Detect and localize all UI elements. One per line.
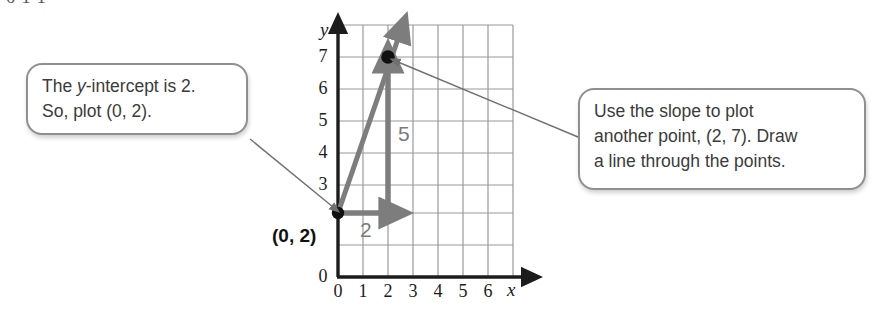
callout-left-line1-post: -intercept is 2.	[86, 76, 196, 96]
x-tick-5: 5	[453, 281, 473, 302]
callout-left-line1-pre: The	[42, 76, 77, 96]
point-2-7	[381, 50, 395, 64]
y-tick-5: 5	[313, 110, 333, 131]
callout-left-line1-italic: y	[77, 76, 86, 96]
point-label-0-2: (0, 2)	[272, 225, 316, 247]
point-0-2	[332, 207, 344, 219]
callout-left-line-2: So, plot (0, 2).	[42, 99, 232, 124]
figure-canvas: 0 1 1	[0, 0, 887, 311]
y-axis-letter: y	[320, 19, 328, 41]
callout-right-line-2: another point, (2, 7). Draw	[594, 124, 850, 149]
callout-plot-second-point: Use the slope to plot another point, (2,…	[578, 88, 866, 190]
y-tick-3: 3	[313, 174, 333, 195]
run-label: 2	[360, 218, 372, 242]
x-tick-4: 4	[428, 281, 448, 302]
callout-y-intercept: The y-intercept is 2. So, plot (0, 2).	[26, 63, 248, 135]
x-tick-6: 6	[478, 281, 498, 302]
callout-left-line-1: The y-intercept is 2.	[42, 74, 232, 99]
x-tick-3: 3	[403, 281, 423, 302]
x-axis-letter: x	[507, 279, 515, 301]
y-tick-7: 7	[313, 46, 333, 67]
rise-label: 5	[398, 122, 410, 146]
callout-right-line-1: Use the slope to plot	[594, 99, 850, 124]
x-tick-1: 1	[353, 281, 373, 302]
x-tick-2: 2	[378, 281, 398, 302]
y-tick-6: 6	[313, 78, 333, 99]
y-tick-4: 4	[313, 142, 333, 163]
y-tick-0: 0	[313, 266, 333, 287]
callout-right-line-3: a line through the points.	[594, 149, 850, 174]
